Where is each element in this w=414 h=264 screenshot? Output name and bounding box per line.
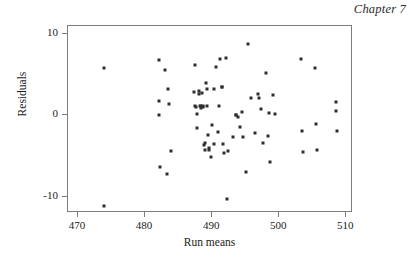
data-point: [219, 58, 222, 61]
y-axis-label: Residuals: [16, 54, 28, 134]
data-point: [334, 100, 337, 103]
data-point: [165, 172, 168, 175]
data-point: [205, 81, 208, 84]
data-point: [207, 133, 210, 136]
data-point: [267, 112, 270, 115]
x-axis-tick-label: 500: [258, 219, 298, 231]
data-point: [195, 112, 198, 115]
data-point: [202, 106, 205, 109]
data-point: [240, 111, 243, 114]
data-point: [250, 96, 253, 99]
data-point: [302, 151, 305, 154]
x-axis-label: Run means: [67, 236, 352, 248]
data-point: [315, 123, 318, 126]
data-point: [166, 88, 169, 91]
y-axis-tick: [62, 33, 67, 34]
data-point: [196, 127, 199, 130]
data-point: [231, 135, 234, 138]
data-point: [258, 96, 261, 99]
data-point: [301, 129, 304, 132]
y-axis-tick: [62, 196, 67, 197]
data-point: [239, 125, 242, 128]
data-point: [225, 198, 228, 201]
y-axis-tick: [62, 114, 67, 115]
data-point: [205, 88, 208, 91]
data-point: [158, 114, 161, 117]
x-axis-tick: [345, 212, 346, 217]
plot-frame: [67, 25, 352, 212]
x-axis-tick-label: 480: [124, 219, 164, 231]
data-point: [193, 64, 196, 67]
data-point: [313, 67, 316, 70]
x-axis-tick: [77, 212, 78, 217]
data-point: [201, 92, 204, 95]
data-point: [221, 142, 224, 145]
data-point: [158, 99, 161, 102]
x-axis-tick-label: 490: [191, 219, 231, 231]
data-point: [260, 107, 263, 110]
data-point: [193, 90, 196, 93]
data-point: [273, 112, 276, 115]
data-point: [335, 109, 338, 112]
data-point: [217, 104, 220, 107]
data-point: [209, 155, 212, 158]
data-point: [102, 67, 105, 70]
data-point: [221, 85, 224, 88]
data-point: [203, 148, 206, 151]
data-point: [247, 42, 250, 45]
data-point: [158, 166, 161, 169]
x-axis-tick: [278, 212, 279, 217]
data-point: [195, 106, 198, 109]
y-axis-tick-label: -10: [28, 189, 58, 201]
data-point: [254, 131, 257, 134]
data-point: [224, 56, 227, 59]
data-point: [242, 136, 245, 139]
data-point: [245, 170, 248, 173]
data-point: [335, 129, 338, 132]
data-point: [215, 66, 218, 69]
data-point: [204, 142, 207, 145]
y-axis-tick-label: 10: [28, 26, 58, 38]
data-point: [164, 68, 167, 71]
data-point: [268, 160, 271, 163]
data-point: [299, 58, 302, 61]
x-axis-tick: [144, 212, 145, 217]
data-point: [158, 59, 161, 62]
scatter-plot-figure: 470480490500510100-10 Run means Residual…: [0, 0, 414, 264]
data-point: [208, 148, 211, 151]
data-point: [216, 130, 219, 133]
data-point: [210, 124, 213, 127]
data-points-layer: [68, 26, 351, 211]
data-point: [227, 150, 230, 153]
data-point: [315, 149, 318, 152]
data-point: [170, 150, 173, 153]
x-axis-tick-label: 470: [57, 219, 97, 231]
data-point: [213, 142, 216, 145]
data-point: [212, 88, 215, 91]
data-point: [223, 151, 226, 154]
data-point: [206, 105, 209, 108]
data-point: [102, 204, 105, 207]
y-axis-tick-label: 0: [28, 107, 58, 119]
x-axis-tick: [211, 212, 212, 217]
data-point: [266, 134, 269, 137]
data-point: [262, 142, 265, 145]
data-point: [236, 116, 239, 119]
x-axis-tick-label: 510: [325, 219, 365, 231]
data-point: [167, 103, 170, 106]
data-point: [264, 72, 267, 75]
data-point: [272, 94, 275, 97]
